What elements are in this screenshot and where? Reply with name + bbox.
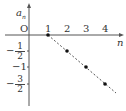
y-axis-arrow-icon xyxy=(27,3,31,8)
x-tick-4: 4 xyxy=(102,24,108,34)
y-tick-threehalf-num: 3 xyxy=(15,75,25,84)
y-tick-threehalf-den: 2 xyxy=(15,85,25,94)
data-point xyxy=(103,82,107,86)
origin-label: O xyxy=(20,24,28,34)
y-tick-half-num: 1 xyxy=(15,42,25,51)
y-tick-threehalf-minus: − xyxy=(6,79,14,89)
x-tick-2: 2 xyxy=(64,24,70,34)
x-tick-1: 1 xyxy=(45,24,51,34)
data-point xyxy=(84,65,88,69)
x-tick-3: 3 xyxy=(83,24,89,34)
y-tick-half-den: 2 xyxy=(15,52,25,61)
y-tick-half-minus: − xyxy=(6,46,14,56)
y-tick-one: −1 xyxy=(12,62,27,72)
data-point xyxy=(65,49,69,53)
x-axis-label: n xyxy=(117,38,123,48)
sequence-plot: an n O 1 2 3 4 − 1 2 −1 − 3 2 xyxy=(0,0,126,111)
y-axis-label: an xyxy=(16,8,26,22)
